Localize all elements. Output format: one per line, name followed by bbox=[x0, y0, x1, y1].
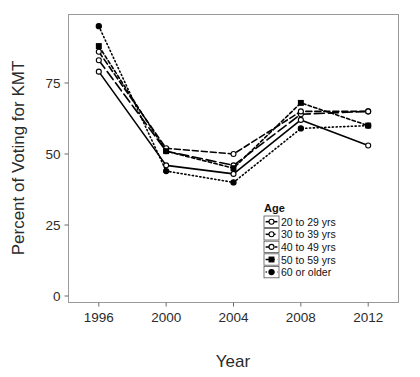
legend-item-label: 30 to 39 yrs bbox=[281, 228, 336, 240]
data-point bbox=[164, 149, 169, 154]
x-tick-label: 2008 bbox=[286, 310, 316, 325]
data-point bbox=[298, 126, 303, 131]
data-point bbox=[269, 244, 274, 249]
y-tick-label: 0 bbox=[53, 289, 61, 304]
data-point bbox=[96, 44, 101, 49]
legend-item-label: 60 or older bbox=[281, 266, 332, 278]
legend-item-1[interactable]: 20 to 29 yrs bbox=[264, 216, 336, 228]
chart-legend: Age20 to 29 yrs30 to 39 yrs40 to 49 yrs5… bbox=[261, 202, 363, 283]
y-tick-label: 25 bbox=[45, 218, 60, 233]
data-point bbox=[96, 24, 101, 29]
data-point bbox=[231, 166, 236, 171]
data-point bbox=[231, 180, 236, 185]
legend-item-5[interactable]: 60 or older bbox=[264, 266, 332, 278]
data-point bbox=[298, 109, 303, 114]
y-axis-title: Percent of Voting for KMT bbox=[9, 61, 28, 256]
x-tick-label: 2000 bbox=[151, 310, 181, 325]
data-point bbox=[231, 152, 236, 157]
data-point bbox=[366, 109, 371, 114]
legend-item-label: 20 to 29 yrs bbox=[281, 216, 336, 228]
line-chart: 0255075 19962000200420082012 Age20 to 29… bbox=[0, 0, 420, 377]
data-point bbox=[164, 168, 169, 173]
data-point bbox=[366, 123, 371, 128]
legend-item-label: 40 to 49 yrs bbox=[281, 241, 336, 253]
data-point bbox=[298, 100, 303, 105]
x-tick-label: 2012 bbox=[353, 310, 383, 325]
legend-item-4[interactable]: 50 to 59 yrs bbox=[264, 254, 336, 266]
data-point bbox=[96, 49, 101, 54]
legend-item-3[interactable]: 40 to 49 yrs bbox=[264, 241, 336, 253]
data-point bbox=[231, 171, 236, 176]
legend-item-2[interactable]: 30 to 39 yrs bbox=[264, 228, 336, 240]
data-point bbox=[269, 257, 274, 262]
x-axis-title: Year bbox=[216, 352, 251, 371]
data-point bbox=[96, 58, 101, 63]
chart-container: 0255075 19962000200420082012 Age20 to 29… bbox=[0, 0, 420, 377]
legend-item-label: 50 to 59 yrs bbox=[281, 254, 336, 266]
data-point bbox=[269, 219, 274, 224]
x-tick-label: 2004 bbox=[218, 310, 249, 325]
data-point bbox=[269, 232, 274, 237]
y-tick-label: 50 bbox=[45, 147, 60, 162]
y-tick-label: 75 bbox=[45, 76, 60, 91]
data-point bbox=[96, 69, 101, 74]
x-tick-label: 1996 bbox=[84, 310, 114, 325]
data-point bbox=[298, 117, 303, 122]
data-point bbox=[269, 270, 274, 275]
data-point bbox=[366, 143, 371, 148]
legend-title: Age bbox=[264, 202, 285, 214]
